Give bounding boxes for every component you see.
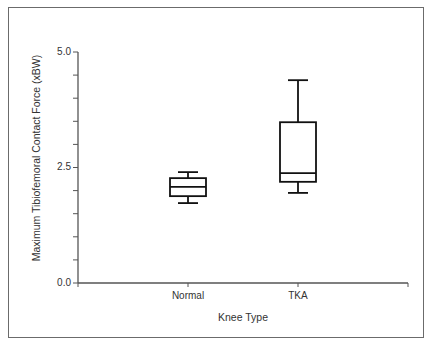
box-tka [280, 80, 316, 193]
box-series [170, 80, 316, 203]
y-axis-title: Maximum Tibiofemoral Contact Force (xBW) [30, 55, 42, 262]
y-tick-label-2.5: 2.5 [57, 161, 71, 172]
box-normal [170, 172, 206, 203]
x-tick-label-tka: TKA [288, 290, 308, 301]
x-tick-label-normal: Normal [172, 290, 204, 301]
x-axis-title: Knee Type [218, 311, 268, 323]
y-tick-label-0: 0.0 [57, 277, 71, 288]
box-plot-chart: 0.0 2.5 5.0 Normal TKA Knee Type Maximum… [0, 0, 432, 347]
y-tick-label-5: 5.0 [57, 46, 71, 57]
x-axis: Normal TKA [78, 283, 408, 301]
y-axis: 0.0 2.5 5.0 [57, 46, 78, 288]
